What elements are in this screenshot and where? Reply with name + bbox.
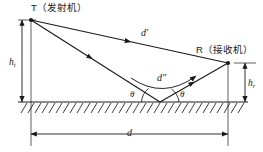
ground-line-group [18, 102, 248, 113]
transmitter-label: T（发射机） [31, 3, 87, 13]
reflected-path-label: d″ [157, 73, 166, 83]
transmitter-height-label: ht [9, 58, 16, 68]
grazing-angle-arc-right [172, 89, 180, 102]
ht-subscript: t [14, 61, 16, 68]
direct-path-label: d′ [141, 28, 148, 38]
separation-distance-label: d [127, 128, 132, 138]
direct-path-line [31, 20, 228, 63]
ground-hatching [21, 103, 244, 113]
reflected-path-outgoing [160, 63, 228, 102]
grazing-angle-left-label: θ [130, 90, 134, 99]
grazing-angle-right-label: θ [180, 90, 184, 99]
receiver-point [226, 61, 230, 65]
transmitter-height-dimension [18, 20, 36, 102]
receiver-label: R（接收机） [196, 45, 253, 55]
two-ray-propagation-diagram: T（发射机） R（接收机） ht hr d′ d″ θ θ d [0, 0, 263, 152]
receiver-height-label: hr [248, 79, 255, 89]
reflected-incident-arrow [80, 51, 90, 57]
hr-subscript: r [253, 82, 256, 89]
